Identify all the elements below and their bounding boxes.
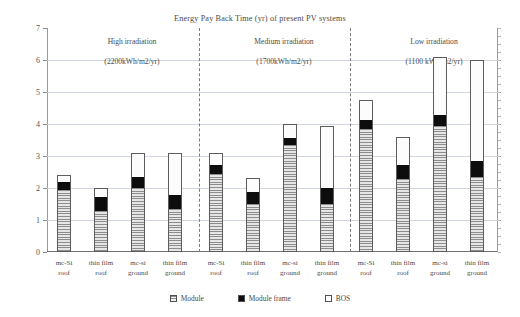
bar-segment-module bbox=[360, 129, 372, 251]
bar-2[interactable] bbox=[94, 188, 108, 252]
bar-segment-bos bbox=[284, 125, 296, 138]
plot-area: 76543210High irradiation(2200kWh/m2/yr)M… bbox=[47, 28, 498, 252]
gridline-3 bbox=[47, 156, 498, 157]
y-tick-mark-0 bbox=[43, 252, 47, 253]
right-minor-tick bbox=[498, 84, 501, 85]
bar-8[interactable] bbox=[320, 126, 334, 252]
x-label-line1: thin film bbox=[453, 258, 501, 268]
right-minor-tick bbox=[498, 164, 501, 165]
bar-segment-module-frame bbox=[284, 138, 296, 146]
group-header-name: High irradiation bbox=[62, 38, 202, 46]
right-minor-tick bbox=[498, 68, 501, 69]
right-minor-tick bbox=[498, 196, 501, 197]
right-minor-tick bbox=[498, 212, 501, 213]
y-tick-label-5: 5 bbox=[36, 88, 40, 97]
bar-segment-module-frame bbox=[132, 177, 144, 188]
y-tick-label-1: 1 bbox=[36, 216, 40, 225]
bar-1[interactable] bbox=[57, 175, 71, 252]
right-minor-tick bbox=[498, 188, 501, 189]
chart-container: Energy Pay Back Time (yr) of present PV … bbox=[0, 0, 520, 317]
chart-legend: Module Module frame BOS bbox=[0, 294, 520, 303]
right-minor-tick bbox=[498, 108, 501, 109]
bar-9[interactable] bbox=[359, 100, 373, 252]
y-tick-label-6: 6 bbox=[36, 56, 40, 65]
bar-segment-module-frame bbox=[95, 197, 107, 211]
y-tick-mark-6 bbox=[43, 60, 47, 61]
right-minor-tick bbox=[498, 220, 501, 221]
x-label-line2: ground bbox=[453, 268, 501, 278]
legend-item-bos: BOS bbox=[325, 294, 350, 303]
bar-segment-module bbox=[471, 177, 483, 251]
right-minor-tick bbox=[498, 172, 501, 173]
gridline-4 bbox=[47, 124, 498, 125]
bar-segment-module-frame bbox=[247, 192, 259, 204]
bar-segment-module bbox=[58, 190, 70, 251]
bar-segment-bos bbox=[397, 138, 409, 165]
group-header-subtitle: (2200kWh/m2/yr) bbox=[62, 58, 202, 66]
y-tick-label-2: 2 bbox=[36, 184, 40, 193]
bar-segment-module-frame bbox=[210, 165, 222, 174]
right-minor-tick bbox=[498, 252, 501, 253]
bar-12[interactable] bbox=[470, 60, 484, 252]
legend-label-module: Module bbox=[181, 294, 204, 303]
module-frame-swatch-icon bbox=[238, 295, 245, 302]
right-minor-tick bbox=[498, 244, 501, 245]
bar-segment-module bbox=[397, 179, 409, 251]
chart-title: Energy Pay Back Time (yr) of present PV … bbox=[0, 14, 520, 23]
y-tick-mark-2 bbox=[43, 188, 47, 189]
bar-segment-bos bbox=[132, 154, 144, 178]
right-minor-tick bbox=[498, 148, 501, 149]
bar-segment-module bbox=[132, 188, 144, 251]
group-header-name: Medium irradiation bbox=[214, 38, 354, 46]
bar-11[interactable] bbox=[433, 57, 447, 252]
bar-segment-module bbox=[284, 145, 296, 251]
y-tick-mark-3 bbox=[43, 156, 47, 157]
bar-segment-bos bbox=[360, 101, 372, 120]
right-minor-tick bbox=[498, 124, 501, 125]
bar-4[interactable] bbox=[168, 153, 182, 252]
y-tick-mark-5 bbox=[43, 92, 47, 93]
module-swatch-icon bbox=[170, 295, 177, 302]
x-axis-baseline bbox=[47, 251, 498, 252]
bar-6[interactable] bbox=[246, 178, 260, 252]
bar-segment-module-frame bbox=[321, 188, 333, 204]
bar-7[interactable] bbox=[283, 124, 297, 252]
legend-item-module: Module bbox=[170, 294, 204, 303]
bar-3[interactable] bbox=[131, 153, 145, 252]
right-minor-tick bbox=[498, 92, 501, 93]
bar-segment-bos bbox=[247, 179, 259, 191]
right-minor-tick bbox=[498, 140, 501, 141]
right-minor-tick bbox=[498, 36, 501, 37]
bar-segment-module bbox=[247, 204, 259, 251]
y-tick-label-3: 3 bbox=[36, 152, 40, 161]
y-tick-label-0: 0 bbox=[36, 248, 40, 257]
right-minor-tick bbox=[498, 76, 501, 77]
group-header-1: High irradiation(2200kWh/m2/yr) bbox=[62, 38, 202, 65]
legend-item-module-frame: Module frame bbox=[238, 294, 291, 303]
right-minor-tick bbox=[498, 156, 501, 157]
right-minor-tick bbox=[498, 132, 501, 133]
bar-segment-module-frame bbox=[58, 182, 70, 190]
gridline-5 bbox=[47, 92, 498, 93]
bar-5[interactable] bbox=[209, 153, 223, 252]
bar-segment-bos bbox=[210, 154, 222, 165]
y-tick-label-4: 4 bbox=[36, 120, 40, 129]
bar-segment-module bbox=[434, 126, 446, 251]
bos-swatch-icon bbox=[325, 295, 332, 302]
right-minor-tick bbox=[498, 180, 501, 181]
right-minor-tick bbox=[498, 236, 501, 237]
right-minor-tick bbox=[498, 204, 501, 205]
bar-segment-bos bbox=[321, 127, 333, 188]
y-tick-mark-7 bbox=[43, 28, 47, 29]
legend-label-module-frame: Module frame bbox=[249, 294, 291, 303]
right-minor-tick bbox=[498, 100, 501, 101]
y-tick-mark-4 bbox=[43, 124, 47, 125]
bar-segment-module bbox=[95, 211, 107, 251]
y-tick-mark-1 bbox=[43, 220, 47, 221]
bar-10[interactable] bbox=[396, 137, 410, 252]
bar-segment-module bbox=[210, 174, 222, 251]
bar-segment-bos bbox=[169, 154, 181, 195]
group-header-name: Low irradiation bbox=[364, 38, 504, 46]
bar-segment-module-frame bbox=[360, 120, 372, 129]
right-minor-tick bbox=[498, 228, 501, 229]
